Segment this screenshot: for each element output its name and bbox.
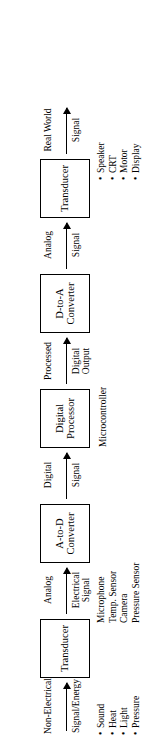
arrow-processed-digital-output bbox=[66, 338, 67, 384]
node-dac[interactable]: D-to-A Converter bbox=[40, 274, 90, 333]
node-processor-label-line1: Digital bbox=[54, 404, 65, 433]
list-item: Temp. Sensor bbox=[108, 563, 120, 623]
edge-label-digital-below: Signal bbox=[72, 449, 82, 501]
edge-input-below-line1: Signal/Energy bbox=[72, 677, 82, 735]
arrow-real-world-output bbox=[66, 108, 67, 154]
microcontroller-caption-text: Microcontroller bbox=[98, 387, 108, 447]
arrow-analog-signal-out bbox=[66, 223, 67, 269]
edge-analog-electrical-below-line2: Signal bbox=[82, 564, 92, 616]
list-input-energy: Sound Heat Light Pressure bbox=[96, 696, 131, 735]
edge-label-analog-electrical-below: Electrical Signal bbox=[72, 564, 92, 616]
list-input-sensors: Microphone Temp. Sensor Camera Pressure … bbox=[96, 563, 131, 623]
arrow-digital-signal bbox=[66, 453, 67, 499]
arrow-input bbox=[66, 683, 67, 731]
edge-label-analog-out-below: Signal bbox=[72, 219, 82, 271]
node-transducer-input[interactable]: Transducer bbox=[40, 619, 90, 678]
edge-label-digital-above: Digital bbox=[44, 449, 54, 501]
edge-analog-out-below-line1: Signal bbox=[72, 219, 82, 271]
edge-analog-electrical-above-line1: Analog bbox=[44, 564, 54, 616]
diagram-rotation-wrapper: Non-Electrical Signal/Energy Transducer … bbox=[0, 0, 131, 741]
node-adc-label-line2: Converter bbox=[65, 513, 76, 555]
node-transducer-input-label: Transducer bbox=[59, 625, 70, 672]
edge-label-analog-out-above: Analog bbox=[44, 219, 54, 271]
edge-label-real-world-above: Real World bbox=[44, 102, 54, 158]
list-item: Heat bbox=[108, 696, 120, 735]
list-item: Sound bbox=[96, 696, 108, 735]
edge-digital-below-line1: Signal bbox=[72, 449, 82, 501]
node-transducer-output-label: Transducer bbox=[59, 165, 70, 212]
list-item: CRT bbox=[108, 142, 120, 180]
edge-label-input-below: Signal/Energy bbox=[72, 677, 82, 735]
edge-processed-above-line1: Processed bbox=[44, 334, 54, 388]
node-adc[interactable]: A-to-D Converter bbox=[40, 504, 90, 563]
list-item: Camera bbox=[119, 563, 131, 623]
list-item: Microphone bbox=[96, 563, 108, 623]
edge-processed-below-line2: Output bbox=[82, 334, 92, 388]
list-output-devices: Speaker CRT Motor Display bbox=[96, 142, 131, 180]
node-processor-label-line2: Processor bbox=[65, 398, 76, 439]
edge-input-above-line1: Non-Electrical bbox=[44, 677, 54, 735]
edge-label-processed-above: Processed bbox=[44, 334, 54, 388]
edge-digital-above-line1: Digital bbox=[44, 449, 54, 501]
list-item: Light bbox=[119, 696, 131, 735]
edge-real-world-above-line1: Real World bbox=[44, 102, 54, 158]
list-item: Motor bbox=[119, 142, 131, 180]
block-diagram-canvas: Non-Electrical Signal/Energy Transducer … bbox=[0, 0, 131, 741]
node-dac-label-line1: D-to-A bbox=[54, 288, 65, 318]
list-item: Speaker bbox=[96, 142, 108, 180]
edge-label-analog-electrical-above: Analog bbox=[44, 564, 54, 616]
node-adc-label-line1: A-to-D bbox=[54, 518, 65, 548]
edge-label-processed-below: Digital Output bbox=[72, 334, 92, 388]
microcontroller-caption: Microcontroller bbox=[99, 382, 109, 452]
edge-analog-out-above-line1: Analog bbox=[44, 219, 54, 271]
node-digital-processor[interactable]: Digital Processor bbox=[40, 389, 90, 448]
edge-label-real-world-below: Signal bbox=[72, 102, 82, 158]
node-transducer-output[interactable]: Transducer bbox=[40, 159, 90, 218]
node-dac-label-line2: Converter bbox=[65, 283, 76, 325]
edge-real-world-below-line1: Signal bbox=[72, 102, 82, 158]
edge-label-input-above: Non-Electrical bbox=[44, 677, 54, 735]
arrow-analog-electrical bbox=[66, 568, 67, 614]
